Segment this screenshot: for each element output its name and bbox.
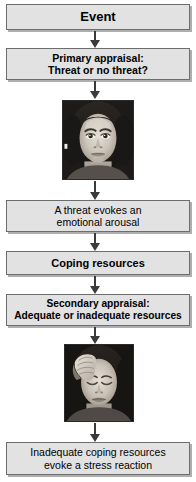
photo-alert-face — [62, 100, 134, 180]
arrow-threat-to-coping — [89, 233, 101, 251]
arrow-photo2-to-stress — [89, 423, 101, 442]
node-event-label: Event — [7, 10, 189, 25]
arrow-primary-to-photo1 — [89, 81, 101, 99]
arrow-event-to-primary — [89, 31, 101, 48]
node-threat-evokes-arousal: A threat evokes an emotional arousal — [6, 200, 190, 232]
node-secondary-appraisal: Secondary appraisal: Adequate or inadequ… — [6, 294, 190, 326]
photo-stressed-face — [64, 344, 134, 422]
node-secondary-appraisal-label: Secondary appraisal: Adequate or inadequ… — [7, 298, 189, 321]
node-event: Event — [6, 4, 190, 30]
node-threat-evokes-arousal-label: A threat evokes an emotional arousal — [7, 204, 189, 228]
flowchart-container: Event Primary appraisal: Threat or no th… — [0, 0, 196, 482]
node-primary-appraisal-label: Primary appraisal: Threat or no threat? — [7, 52, 189, 76]
node-coping-resources-label: Coping resources — [7, 257, 189, 270]
node-stress-reaction: Inadequate coping resources evoke a stre… — [6, 442, 190, 475]
node-stress-reaction-label: Inadequate coping resources evoke a stre… — [7, 446, 189, 470]
node-primary-appraisal: Primary appraisal: Threat or no threat? — [6, 48, 190, 80]
arrow-coping-to-secondary — [89, 276, 101, 294]
arrow-photo1-to-threat — [89, 181, 101, 200]
node-coping-resources: Coping resources — [6, 251, 190, 275]
arrow-secondary-to-photo2 — [89, 327, 101, 344]
